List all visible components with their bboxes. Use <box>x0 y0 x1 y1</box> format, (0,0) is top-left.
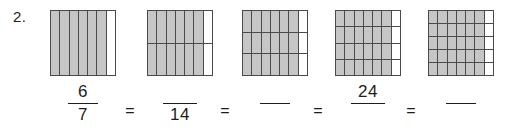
model-cell-shaded[interactable] <box>157 44 166 76</box>
model-cell-shaded[interactable] <box>382 44 391 59</box>
model-cell-unshaded[interactable] <box>299 11 307 32</box>
model-cell-shaded[interactable] <box>466 24 475 36</box>
model-cell-shaded[interactable] <box>262 33 271 54</box>
fraction-1-denominator[interactable]: 7 <box>78 105 88 125</box>
model-cell-shaded[interactable] <box>243 33 252 54</box>
model-cell-shaded[interactable] <box>194 11 203 43</box>
model-cell-unshaded[interactable] <box>299 54 307 75</box>
model-cell-shaded[interactable] <box>373 27 382 42</box>
model-cell-shaded[interactable] <box>466 63 475 75</box>
model-cell-shaded[interactable] <box>345 11 354 26</box>
model-cell-shaded[interactable] <box>429 63 438 75</box>
model-cell-unshaded[interactable] <box>204 44 212 76</box>
model-cell-shaded[interactable] <box>289 54 298 75</box>
model-cell-shaded[interactable] <box>457 11 466 23</box>
model-cell-shaded[interactable] <box>457 50 466 62</box>
model-cell-shaded[interactable] <box>373 11 382 26</box>
model-cell-shaded[interactable] <box>280 33 289 54</box>
model-cell-shaded[interactable] <box>51 11 60 75</box>
model-cell-shaded[interactable] <box>167 11 176 43</box>
model-cell-shaded[interactable] <box>355 60 364 75</box>
model-cell-shaded[interactable] <box>429 37 438 49</box>
model-cell-shaded[interactable] <box>457 63 466 75</box>
model-cell-unshaded[interactable] <box>204 11 212 43</box>
model-cell-shaded[interactable] <box>148 44 157 76</box>
model-cell-shaded[interactable] <box>70 11 79 75</box>
model-cell-shaded[interactable] <box>373 60 382 75</box>
model-cell-shaded[interactable] <box>448 50 457 62</box>
model-cell-unshaded[interactable] <box>485 50 493 62</box>
model-cell-shaded[interactable] <box>336 27 345 42</box>
model-cell-shaded[interactable] <box>262 11 271 32</box>
model-cell-shaded[interactable] <box>475 37 484 49</box>
model-cell-shaded[interactable] <box>475 50 484 62</box>
model-cell-shaded[interactable] <box>289 33 298 54</box>
model-cell-shaded[interactable] <box>429 24 438 36</box>
model-cell-shaded[interactable] <box>262 54 271 75</box>
model-cell-shaded[interactable] <box>364 11 373 26</box>
model-cell-shaded[interactable] <box>271 11 280 32</box>
model-cell-shaded[interactable] <box>336 60 345 75</box>
model-cell-shaded[interactable] <box>194 44 203 76</box>
model-cell-shaded[interactable] <box>438 11 447 23</box>
model-cell-shaded[interactable] <box>157 11 166 43</box>
model-cell-shaded[interactable] <box>345 60 354 75</box>
model-cell-shaded[interactable] <box>429 50 438 62</box>
model-cell-shaded[interactable] <box>448 11 457 23</box>
model-cell-shaded[interactable] <box>373 44 382 59</box>
model-cell-shaded[interactable] <box>176 44 185 76</box>
model-cell-unshaded[interactable] <box>392 27 400 42</box>
model-cell-unshaded[interactable] <box>107 11 115 75</box>
model-cell-shaded[interactable] <box>364 44 373 59</box>
model-cell-shaded[interactable] <box>364 60 373 75</box>
model-cell-shaded[interactable] <box>448 24 457 36</box>
area-model-3[interactable] <box>242 10 308 76</box>
model-cell-shaded[interactable] <box>448 63 457 75</box>
model-cell-shaded[interactable] <box>345 44 354 59</box>
model-cell-shaded[interactable] <box>271 54 280 75</box>
model-cell-shaded[interactable] <box>60 11 69 75</box>
model-cell-shaded[interactable] <box>466 37 475 49</box>
model-cell-shaded[interactable] <box>355 44 364 59</box>
model-cell-shaded[interactable] <box>289 11 298 32</box>
model-cell-unshaded[interactable] <box>299 33 307 54</box>
model-cell-shaded[interactable] <box>457 24 466 36</box>
model-cell-shaded[interactable] <box>271 33 280 54</box>
fraction-2-denominator[interactable]: 14 <box>170 105 190 125</box>
model-cell-unshaded[interactable] <box>392 60 400 75</box>
model-cell-shaded[interactable] <box>475 63 484 75</box>
area-model-5[interactable] <box>428 10 494 76</box>
model-cell-shaded[interactable] <box>438 63 447 75</box>
model-cell-shaded[interactable] <box>97 11 106 75</box>
model-cell-shaded[interactable] <box>176 11 185 43</box>
model-cell-unshaded[interactable] <box>392 11 400 26</box>
model-cell-shaded[interactable] <box>466 11 475 23</box>
model-cell-shaded[interactable] <box>438 24 447 36</box>
model-cell-shaded[interactable] <box>355 27 364 42</box>
model-cell-shaded[interactable] <box>336 44 345 59</box>
model-cell-shaded[interactable] <box>429 11 438 23</box>
area-model-2[interactable] <box>147 10 213 76</box>
model-cell-shaded[interactable] <box>438 50 447 62</box>
model-cell-unshaded[interactable] <box>485 24 493 36</box>
model-cell-shaded[interactable] <box>382 11 391 26</box>
model-cell-unshaded[interactable] <box>485 63 493 75</box>
fraction-4-numerator[interactable]: 24 <box>358 82 378 102</box>
model-cell-shaded[interactable] <box>382 60 391 75</box>
model-cell-shaded[interactable] <box>448 37 457 49</box>
model-cell-shaded[interactable] <box>252 33 261 54</box>
model-cell-unshaded[interactable] <box>392 44 400 59</box>
area-model-4[interactable] <box>335 10 401 76</box>
model-cell-shaded[interactable] <box>243 54 252 75</box>
model-cell-shaded[interactable] <box>185 11 194 43</box>
model-cell-shaded[interactable] <box>79 11 88 75</box>
model-cell-shaded[interactable] <box>355 11 364 26</box>
model-cell-shaded[interactable] <box>438 37 447 49</box>
model-cell-shaded[interactable] <box>243 11 252 32</box>
model-cell-unshaded[interactable] <box>485 11 493 23</box>
model-cell-shaded[interactable] <box>185 44 194 76</box>
area-model-1[interactable] <box>50 10 116 76</box>
model-cell-shaded[interactable] <box>475 11 484 23</box>
model-cell-shaded[interactable] <box>466 50 475 62</box>
model-cell-shaded[interactable] <box>148 11 157 43</box>
